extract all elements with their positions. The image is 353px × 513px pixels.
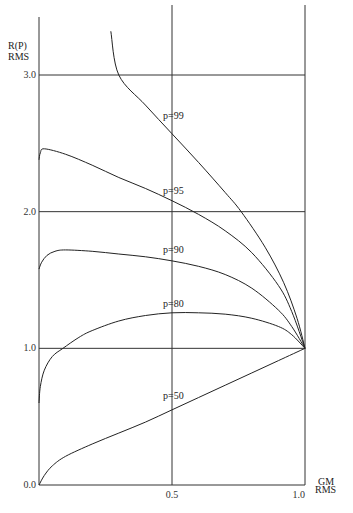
y-axis-label-line-2: RMS: [8, 51, 29, 62]
series-label: p=90: [163, 244, 184, 255]
series-line-p-99: [111, 31, 305, 348]
y-tick-label: 3.0: [24, 69, 37, 80]
chart: R(P) RMS GM RMS 0.01.02.03.00.51.0p=99p=…: [0, 0, 353, 513]
x-axis-label-line-2: RMS: [315, 484, 336, 495]
series-label: p=99: [163, 110, 184, 121]
series-label: p=95: [163, 185, 184, 196]
y-tick-label: 0.0: [24, 479, 37, 490]
y-tick-label: 2.0: [24, 206, 37, 217]
series-label: p=80: [163, 298, 184, 309]
x-tick-label: 1.0: [293, 489, 306, 500]
y-tick-label: 1.0: [24, 342, 37, 353]
series-label: p=50: [163, 390, 184, 401]
x-tick-label: 0.5: [166, 489, 179, 500]
